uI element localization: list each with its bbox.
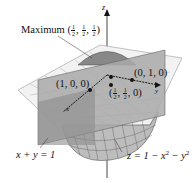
point-label-1-0-0: (1, 0, 0) [56, 79, 89, 90]
x-axis-label: x [66, 106, 69, 113]
point-label-half-half-0: (12, 12, 0) [109, 87, 142, 100]
surface-equation-label: z = 1 − x2 − y2 [127, 150, 189, 162]
y-axis-label: y [155, 88, 158, 95]
maximum-label-text: Maximum [21, 24, 65, 35]
point-label-0-1-0: (0, 1, 0) [134, 68, 167, 79]
maximum-label: Maximum (12, 12, 12) [21, 24, 100, 37]
point-0-1-0 [130, 78, 134, 82]
plane-equation-label: x + y = 1 [16, 150, 55, 161]
maximum-leader-line [58, 36, 92, 58]
point-max [109, 75, 113, 79]
z-axis-label: z [102, 4, 105, 12]
